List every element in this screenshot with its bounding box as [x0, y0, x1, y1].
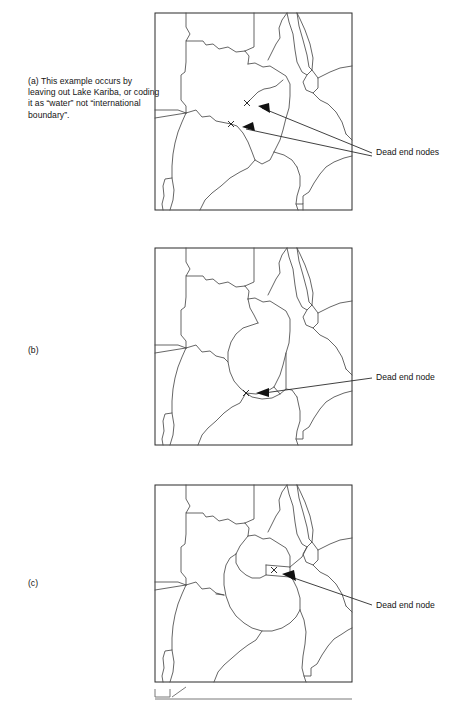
panel-b-frame — [155, 248, 352, 445]
panel-c-dead-end-marker — [271, 567, 277, 573]
panel-a-dead-end-marker-1 — [244, 100, 250, 106]
panel-a-boundaries — [155, 13, 352, 210]
panel-c-boundaries — [155, 485, 352, 682]
panel-c-arrowhead — [282, 570, 296, 581]
panel-a-frame — [155, 13, 352, 210]
panel-b-arrowhead — [256, 388, 269, 397]
panel-b-boundaries — [155, 248, 352, 445]
bottom-clipped-fragment — [155, 687, 352, 699]
panel-a-arrowhead-1 — [258, 103, 270, 113]
figure-artwork — [0, 0, 465, 702]
panel-b-map — [155, 248, 372, 445]
figure-dead-end-nodes: (a) This example occurs by leaving out L… — [0, 0, 465, 702]
panel-c-frame — [155, 485, 352, 682]
panel-a-map — [155, 13, 372, 210]
panel-c-map — [155, 485, 372, 682]
